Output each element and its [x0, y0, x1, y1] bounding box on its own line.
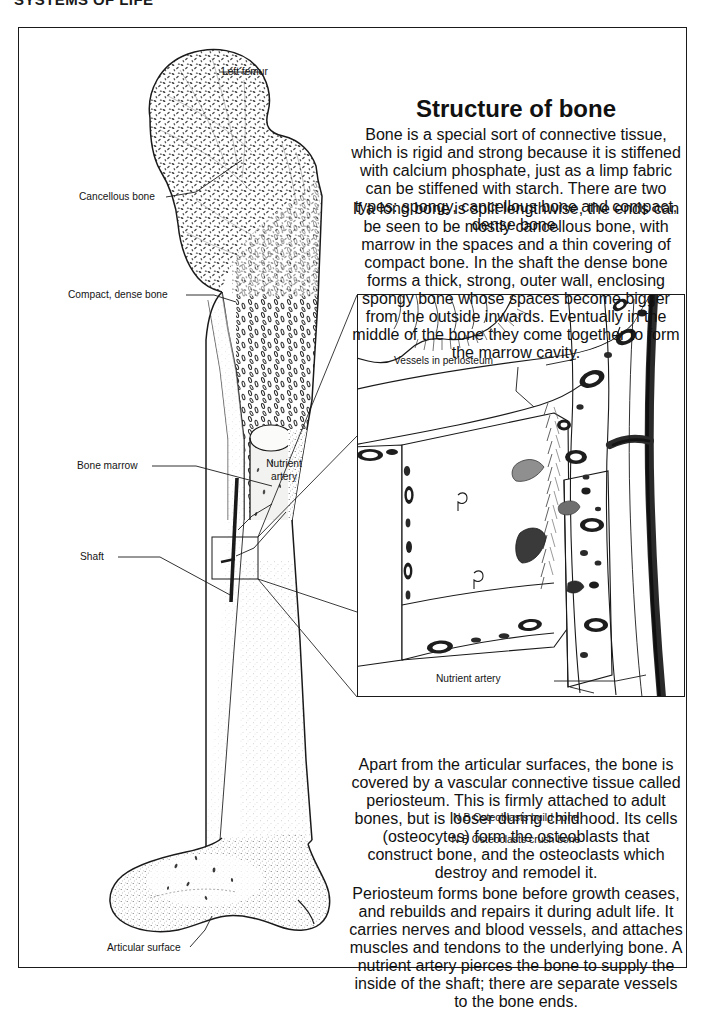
label-nutrient-artery-line2: artery — [255, 471, 313, 483]
nota-bene-group: N B Osteoblasts build bone N B Osteoclas… — [349, 812, 683, 855]
label-inset-nutrient-artery: Nutrient artery — [436, 673, 501, 685]
label-left-femur: Left femur — [222, 66, 268, 78]
label-compact-dense-bone: Compact, dense bone — [68, 289, 168, 301]
label-articular-surface: Articular surface — [107, 942, 181, 954]
label-cancellous-bone: Cancellous bone — [79, 191, 155, 203]
nb-osteoblasts: N B Osteoblasts build bone — [349, 812, 683, 825]
section-heading: Structure of bone — [349, 95, 683, 123]
paragraph-long-bone-structure: If a long bone is split lengthwise, the … — [349, 200, 683, 362]
label-shaft: Shaft — [80, 551, 104, 563]
paragraph-periosteum-function: Periosteum forms bone before growth ceas… — [349, 885, 683, 1011]
label-nutrient-artery-line1: Nutrient — [255, 458, 313, 470]
running-head: SYSTEMS OF LIFE — [14, 0, 153, 8]
nb-osteoclasts: N B Osteoclasts crush bone — [349, 834, 683, 847]
label-bone-marrow: Bone marrow — [77, 460, 138, 472]
